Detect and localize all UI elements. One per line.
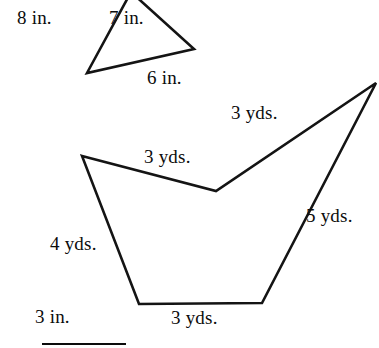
label-3-yds-bottom: 3 yds. bbox=[171, 308, 218, 328]
worksheet-page: 8 in. 7 in. 6 in. 3 yds. 3 yds. 5 yds. 4… bbox=[0, 0, 379, 348]
label-7-in: 7 in. bbox=[109, 8, 144, 28]
label-6-in: 6 in. bbox=[147, 68, 182, 88]
label-4-yds-left: 4 yds. bbox=[50, 234, 97, 254]
geometry-figures-canvas bbox=[0, 0, 379, 348]
answer-blank-rule bbox=[42, 343, 126, 345]
quadrilateral-yards-outline bbox=[82, 83, 376, 304]
label-3-yds-upper-left: 3 yds. bbox=[144, 147, 191, 167]
label-8-in: 8 in. bbox=[17, 8, 52, 28]
label-5-yds-right: 5 yds. bbox=[306, 206, 353, 226]
label-3-yds-upper-right: 3 yds. bbox=[231, 103, 278, 123]
answer-blank-label: 3 in. bbox=[35, 307, 70, 327]
